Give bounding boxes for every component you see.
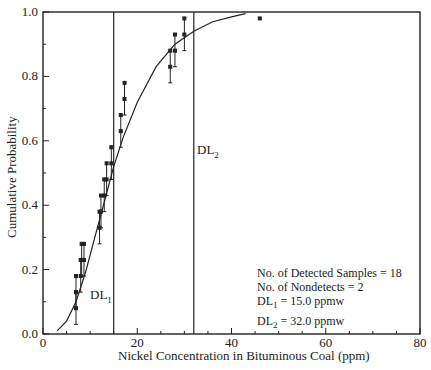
- detection-limit-lines: [114, 12, 194, 334]
- dl1-label: DL1: [90, 287, 112, 305]
- fitted-cdf-curve: [57, 14, 246, 331]
- annot-nondetects: No. of Nondetects = 2: [257, 280, 402, 294]
- y-tick-label: 0.2: [4, 262, 38, 278]
- y-tick-label: 0.0: [4, 326, 38, 342]
- y-tick-label: 0.4: [4, 197, 38, 213]
- annot-dl1: DL1 = 15.0 ppmw: [257, 294, 402, 312]
- y-tick-label: 0.8: [4, 68, 38, 84]
- dl2-sub: 2: [214, 150, 219, 160]
- x-tick-label: 80: [413, 335, 426, 351]
- dl1-text: DL: [90, 287, 107, 302]
- dl2-text: DL: [197, 142, 214, 157]
- data-points: [74, 17, 261, 324]
- x-tick-label: 0: [40, 335, 47, 351]
- stats-annotation: No. of Detected Samples = 18 No. of Nond…: [257, 266, 402, 333]
- annot-detected: No. of Detected Samples = 18: [257, 266, 402, 280]
- dl1-sub: 1: [107, 295, 112, 305]
- x-axis-label: Nickel Concentration in Bituminous Coal …: [118, 348, 370, 364]
- dl2-label: DL2: [197, 142, 219, 160]
- y-tick-label: 0.6: [4, 133, 38, 149]
- y-tick-label: 1.0: [4, 4, 38, 20]
- annot-dl2: DL2 = 32.0 ppmw: [257, 314, 402, 332]
